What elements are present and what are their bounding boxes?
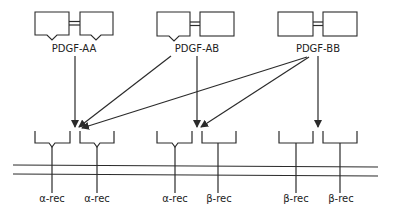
receptor-label: β-rec: [328, 193, 354, 204]
receptor-alpha-1: α-rec: [35, 131, 70, 204]
receptor-beta-3: β-rec: [323, 131, 357, 204]
receptor-label: β-rec: [206, 193, 232, 204]
b-chain-box: [200, 12, 234, 36]
ligand-pdgf-bb: PDGF-BB: [278, 12, 357, 54]
cell-membrane: [13, 165, 378, 176]
ligand-pdgf-ab: PDGF-AB: [157, 12, 234, 54]
arrow-bb-to-alpha-alpha: [82, 57, 307, 128]
arrow-ab-to-alpha-alpha: [79, 56, 171, 127]
receptor-beta-2: β-rec: [279, 131, 313, 204]
arrow-bb-to-alpha-beta: [201, 57, 309, 127]
ligand-label: PDGF-AA: [52, 43, 97, 54]
binding-arrows: [75, 56, 318, 128]
membrane-outer-line: [13, 165, 378, 167]
ligand-label: PDGF-BB: [296, 43, 340, 54]
receptor-alpha-2: α-rec: [80, 131, 114, 204]
receptor-beta-1: β-rec: [202, 131, 236, 204]
pdgf-binding-diagram: PDGF-AA PDGF-AB PDGF-BB α-rec: [0, 0, 393, 216]
b-chain-box: [278, 12, 313, 36]
receptor-label: α-rec: [39, 193, 65, 204]
ligand-pdgf-aa: PDGF-AA: [35, 12, 113, 54]
receptor-label: β-rec: [283, 193, 309, 204]
a-chain-box: [157, 12, 190, 41]
a-chain-box: [35, 12, 69, 40]
receptor-label: α-rec: [84, 193, 110, 204]
receptor-label: α-rec: [162, 193, 188, 204]
receptor-alpha-3: α-rec: [157, 131, 192, 204]
ligand-label: PDGF-AB: [175, 43, 219, 54]
membrane-inner-line: [13, 174, 378, 176]
b-chain-box: [323, 12, 357, 36]
a-chain-box: [80, 12, 113, 40]
